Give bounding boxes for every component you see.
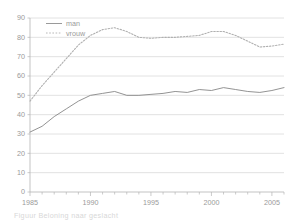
- x-tick-label-1990: 1990: [82, 198, 98, 207]
- y-tick-label-70: 70: [17, 52, 25, 61]
- x-tick-label-2000: 2000: [203, 198, 219, 207]
- y-tick-label-60: 60: [17, 71, 25, 80]
- y-tick-label-80: 80: [17, 33, 25, 42]
- x-axis-ticks: 19851990199520002005: [22, 192, 284, 207]
- legend-label-vrouw: vrouw: [66, 29, 86, 38]
- x-tick-label-1995: 1995: [143, 198, 159, 207]
- line-chart: 0102030405060708090 19851990199520002005…: [0, 0, 291, 223]
- x-tick-label-2005: 2005: [264, 198, 280, 207]
- y-tick-label-20: 20: [17, 149, 25, 158]
- y-tick-label-50: 50: [17, 91, 25, 100]
- figure-caption: Figuur Beloning naar geslacht: [14, 211, 284, 223]
- legend-label-man: man: [66, 19, 80, 28]
- y-axis-ticks: 0102030405060708090: [17, 13, 30, 196]
- plot-area-background: [30, 18, 284, 192]
- y-tick-label-10: 10: [17, 168, 25, 177]
- x-tick-label-1985: 1985: [22, 198, 38, 207]
- y-tick-label-30: 30: [17, 129, 25, 138]
- y-tick-label-40: 40: [17, 110, 25, 119]
- y-tick-label-0: 0: [21, 187, 25, 196]
- y-tick-label-90: 90: [17, 13, 25, 22]
